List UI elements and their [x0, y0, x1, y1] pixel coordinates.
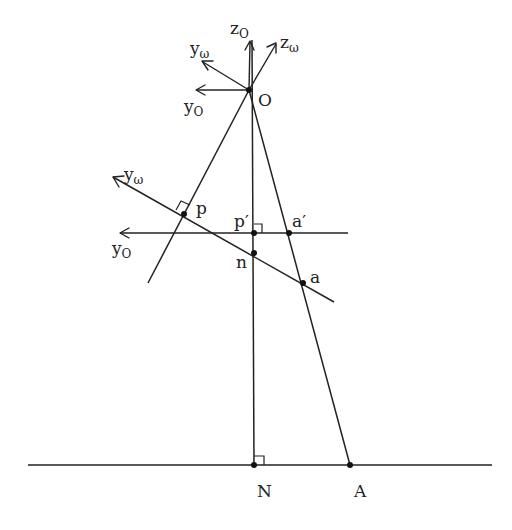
point-A — [347, 462, 353, 468]
label-y-omega-top: yω — [189, 38, 210, 61]
label-O: O — [258, 90, 272, 110]
z-o-axis — [249, 42, 250, 90]
label-p-prime: p′ — [234, 211, 249, 231]
label-a-prime: a′ — [292, 211, 306, 231]
point-N — [251, 462, 257, 468]
label-n: n — [236, 252, 247, 272]
label-N: N — [257, 481, 272, 501]
label-A: A — [353, 481, 367, 501]
projection-diagram: zO zω yω yO O yω yO p p′ a′ n a N A — [0, 0, 512, 530]
label-a: a — [310, 267, 320, 287]
point-p-prime — [251, 230, 257, 236]
label-z-omega: zω — [280, 32, 299, 55]
point-a — [300, 280, 306, 286]
ray-O-A — [249, 90, 350, 465]
point-n — [251, 250, 257, 256]
point-p — [181, 211, 187, 217]
z-omega-axis — [249, 44, 276, 90]
label-y-o-top: yO — [183, 96, 204, 119]
y-omega-axis — [203, 62, 249, 90]
label-z-o: zO — [230, 18, 249, 41]
point-O — [246, 87, 252, 93]
label-p: p — [196, 198, 207, 218]
label-y-omega-mid: yω — [123, 164, 144, 187]
label-y-o-mid: yO — [111, 238, 132, 261]
